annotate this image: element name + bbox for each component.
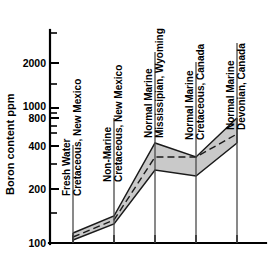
station-5-line2: Devonian, Canada: [236, 43, 247, 130]
station-2-line1: Non-Marine: [102, 127, 113, 182]
boron-content-chart: 100 200 400 800 1000 2000 Boron content …: [0, 0, 273, 258]
station-4-line2: Cretaceous, Canada: [195, 43, 206, 140]
y-tick-label-200: 200: [28, 183, 46, 195]
y-tick-label-100: 100: [28, 237, 46, 249]
chart-canvas: 100 200 400 800 1000 2000 Boron content …: [0, 0, 273, 258]
y-tick-label-2000: 2000: [23, 57, 47, 69]
station-3-line2: Mississipian, Wyoming: [154, 28, 165, 138]
station-4-line1: Normal Marine: [184, 70, 195, 140]
station-2-line2: Cretaceous, New Mexico: [113, 65, 124, 182]
station-1-line1: Fresh Water: [61, 138, 72, 196]
station-1-line2: Cretaceous, New Mexico: [72, 79, 83, 196]
station-5-line1: Normal Marine: [225, 60, 236, 130]
y-tick-label-800: 800: [28, 112, 46, 124]
y-axis-title: Boron content ppm: [4, 93, 16, 195]
station-3-line1: Normal Marine: [143, 68, 154, 138]
y-tick-label-1000: 1000: [23, 100, 47, 112]
y-tick-label-400: 400: [28, 140, 46, 152]
